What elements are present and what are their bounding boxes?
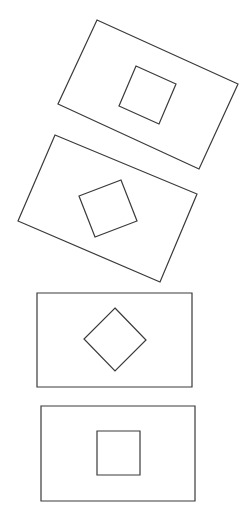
inner-square <box>119 66 176 124</box>
figure-1 <box>58 20 238 169</box>
figure-4 <box>41 406 195 501</box>
inner-square <box>79 180 137 237</box>
figure-3 <box>37 293 192 387</box>
outer-rectangle <box>58 20 238 169</box>
outer-rectangle <box>37 293 192 387</box>
inner-square <box>97 431 140 475</box>
outer-rectangle <box>41 406 195 501</box>
outer-rectangle <box>18 135 197 282</box>
diagram-canvas <box>0 0 251 515</box>
figure-2 <box>18 135 197 282</box>
inner-diamond <box>84 308 146 371</box>
